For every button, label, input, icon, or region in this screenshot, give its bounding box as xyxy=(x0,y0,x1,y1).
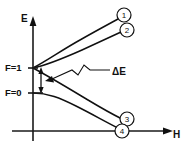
curve-branch-1 xyxy=(33,19,118,68)
branch-marker-2-label: 2 xyxy=(125,26,130,35)
branch-marker-3-label: 3 xyxy=(125,115,130,124)
y-axis-arrowhead xyxy=(30,16,37,26)
x-axis-label: H xyxy=(173,129,180,140)
y-axis-label: E xyxy=(21,13,28,24)
branch-marker-4-label: 4 xyxy=(120,127,125,136)
branch-marker-4: 4 xyxy=(115,124,129,138)
x-axis xyxy=(12,127,173,134)
y-axis xyxy=(30,16,37,141)
branch-marker-1: 1 xyxy=(117,8,131,22)
breit-rabi-figure: 1 2 3 4 E H F=1 F=0 ΔE xyxy=(0,0,188,152)
curve-branch-2 xyxy=(33,32,121,68)
branch-marker-2: 2 xyxy=(120,23,134,37)
level-label-f0: F=0 xyxy=(5,87,22,98)
branch-marker-1-label: 1 xyxy=(122,11,127,20)
delta-e-label: ΔE xyxy=(112,66,126,77)
x-axis-arrowhead xyxy=(163,127,173,134)
figure-canvas: 1 2 3 4 xyxy=(0,0,188,152)
delta-e-leader-line xyxy=(52,65,110,79)
level-label-f1: F=1 xyxy=(5,62,22,73)
curve-branch-3 xyxy=(33,68,122,119)
